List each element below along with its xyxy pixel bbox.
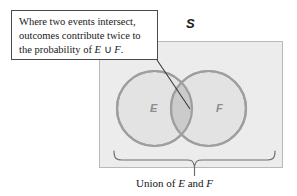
union-brace [114,151,275,166]
caption-math-f: F [206,177,213,189]
circle-label-e: E [150,102,157,114]
callout-text: Where two events intersect,outcomes cont… [19,15,151,58]
union-caption: Union of E and F [136,177,213,189]
callout-line-3-prefix: the probability of [19,44,95,55]
callout-box: Where two events intersect,outcomes cont… [11,10,158,60]
callout-line-2: outcomes contribute twice to [19,30,141,41]
caption-middle: and [185,177,206,189]
caption-prefix: Union of [136,177,178,189]
circle-label-f: F [216,102,223,114]
callout-union-symbol: ∪ [101,44,114,55]
callout-line-1: Where two events intersect, [19,16,136,27]
caption-math-e: E [178,177,185,189]
callout-line-3-suffix: . [121,44,124,55]
venn-diagram-figure: S E F Where two events intersect,outcome… [0,0,297,196]
